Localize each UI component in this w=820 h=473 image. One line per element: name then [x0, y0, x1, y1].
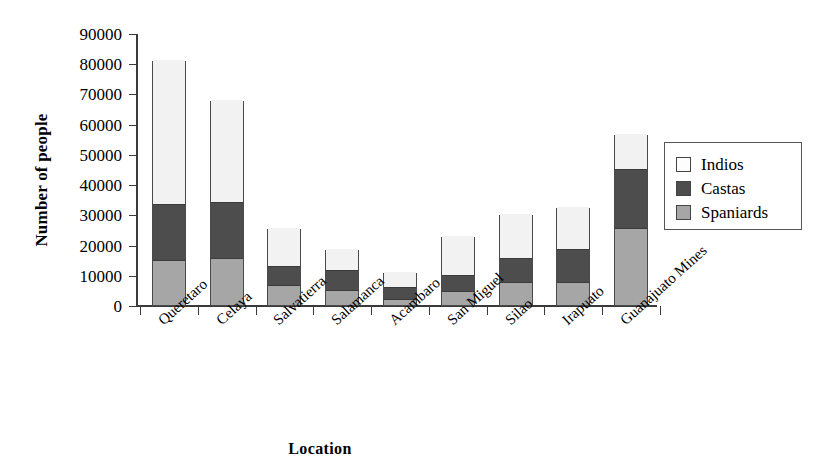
bar-segment-castas — [557, 249, 589, 282]
bar-segment-castas — [268, 266, 300, 286]
bar-segment-indios — [384, 272, 416, 287]
bar-segment-indios — [326, 249, 358, 270]
bar-segment-indios — [615, 134, 647, 169]
y-tick-label: 0 — [114, 297, 123, 317]
chart-legend: IndiosCastasSpaniards — [664, 142, 802, 230]
y-tick-label: 40000 — [80, 176, 123, 196]
y-tick — [129, 246, 137, 247]
y-tick — [129, 94, 137, 95]
bar-segment-castas — [615, 169, 647, 228]
y-tick — [129, 125, 137, 126]
y-tick — [129, 215, 137, 216]
x-tick — [371, 306, 372, 315]
y-tick — [129, 185, 137, 186]
bar-segment-indios — [557, 207, 589, 249]
bar-segment-castas — [153, 204, 185, 260]
bar-segment-castas — [211, 202, 243, 258]
bar-segment-indios — [268, 228, 300, 266]
bar-celaya — [210, 101, 244, 307]
y-tick-label: 10000 — [80, 267, 123, 287]
y-tick-label: 20000 — [80, 237, 123, 257]
x-tick — [544, 306, 545, 315]
stacked-bar-chart: Number of people 01000020000300004000050… — [0, 0, 820, 473]
x-tick — [313, 306, 314, 315]
y-tick-label: 70000 — [80, 85, 123, 105]
y-tick — [129, 64, 137, 65]
legend-swatch-spaniards-icon — [676, 205, 691, 220]
bar-segment-castas — [326, 270, 358, 290]
bar-segment-indios — [500, 214, 532, 258]
y-tick — [129, 155, 137, 156]
y-axis-tick-labels: 0100002000030000400005000060000700008000… — [0, 34, 128, 307]
x-tick — [429, 306, 430, 315]
y-tick-label: 60000 — [80, 116, 123, 136]
legend-label: Castas — [701, 180, 745, 197]
x-tick — [256, 306, 257, 315]
legend-item-indios: Indios — [676, 152, 801, 176]
x-tick — [487, 306, 488, 315]
plot-area — [136, 34, 656, 306]
bar-guanajuato-mines — [614, 135, 648, 306]
bar-segment-indios — [211, 100, 243, 203]
y-tick-label: 80000 — [80, 55, 123, 75]
x-axis-title: Location — [0, 440, 640, 458]
legend-label: Indios — [701, 156, 744, 173]
legend-item-spaniards: Spaniards — [676, 200, 801, 224]
legend-item-castas: Castas — [676, 176, 801, 200]
x-tick — [660, 306, 661, 315]
x-tick — [140, 306, 141, 315]
bar-queretaro — [152, 61, 186, 306]
legend-swatch-castas-icon — [676, 181, 691, 196]
legend-swatch-indios-icon — [676, 157, 691, 172]
y-tick — [129, 306, 137, 307]
bar-segment-indios — [442, 236, 474, 275]
bar-segment-castas — [442, 275, 474, 292]
legend-label: Spaniards — [701, 204, 768, 221]
x-tick — [198, 306, 199, 315]
y-axis-line — [136, 34, 138, 307]
y-tick-label: 30000 — [80, 206, 123, 226]
bar-silao — [499, 215, 533, 306]
x-tick — [602, 306, 603, 315]
y-tick — [129, 276, 137, 277]
y-tick-label: 50000 — [80, 146, 123, 166]
y-tick — [129, 34, 137, 35]
y-tick-label: 90000 — [80, 25, 123, 45]
bar-segment-indios — [153, 60, 185, 204]
